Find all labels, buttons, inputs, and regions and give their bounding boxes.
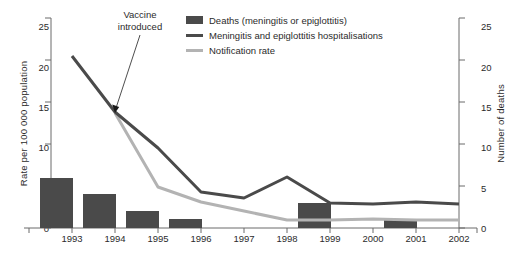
legend-item-deaths: Deaths (meningitis or epiglottitis)	[186, 13, 383, 27]
line-notification-rate	[115, 113, 459, 220]
vaccine-annotation: Vaccine introduced	[96, 9, 184, 32]
legend-line-swatch-light-icon	[186, 49, 203, 52]
vaccine-annotation-line1: Vaccine	[96, 9, 184, 21]
legend-label-hospitalisations: Meningitis and epiglottitis hospitalisat…	[209, 30, 383, 41]
legend-label-deaths: Deaths (meningitis or epiglottitis)	[209, 15, 347, 26]
chart-container: Rate per 100 000 population Number of de…	[0, 0, 520, 257]
legend-label-notification: Notification rate	[209, 45, 275, 56]
annotation-arrow-line	[116, 35, 140, 108]
chart-legend: Deaths (meningitis or epiglottitis) Meni…	[186, 13, 383, 58]
bar-1995	[126, 211, 159, 228]
bar-1994	[83, 194, 116, 228]
legend-line-swatch-dark-icon	[186, 34, 203, 37]
legend-bar-swatch-icon	[186, 16, 203, 24]
legend-item-notification: Notification rate	[186, 43, 383, 57]
bar-1999	[298, 203, 331, 228]
y-axis-right-ticks	[459, 18, 465, 228]
vaccine-annotation-line2: introduced	[96, 21, 184, 33]
bar-1996	[169, 219, 202, 228]
x-axis-ticks	[29, 228, 477, 233]
line-hospitalisations	[72, 56, 459, 204]
legend-item-hospitalisations: Meningitis and epiglottitis hospitalisat…	[186, 28, 383, 42]
bar-1993	[40, 178, 73, 228]
